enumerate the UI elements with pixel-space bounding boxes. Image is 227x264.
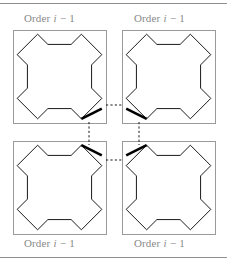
quadrant-label-bottom-right: Order i − 1 [134, 237, 185, 250]
order-motif-curve-top-right [126, 34, 211, 119]
thick-join-segment-bottom-left [81, 145, 101, 155]
label-prefix-bl: Order [24, 237, 53, 249]
label-suffix-br: − 1 [167, 237, 185, 249]
thick-join-segment-bottom-right [126, 145, 146, 155]
label-prefix-tl: Order [24, 12, 53, 24]
figure-canvas: Order i − 1 Order i − 1 Order i − 1 Orde… [0, 0, 227, 264]
label-prefix-br: Order [134, 237, 163, 249]
label-suffix-tr: − 1 [167, 12, 185, 24]
order-motif-curve-top-left [17, 34, 102, 119]
thick-join-segment-top-right [126, 109, 146, 119]
thick-join-segment-top-left [81, 109, 101, 119]
recursive-curve-diagram [0, 0, 227, 264]
order-motif-curve-bottom-right [126, 145, 211, 230]
label-prefix-tr: Order [134, 12, 163, 24]
quadrant-label-bottom-left: Order i − 1 [24, 237, 75, 250]
label-suffix-tl: − 1 [57, 12, 75, 24]
label-suffix-bl: − 1 [57, 237, 75, 249]
quadrant-label-top-left: Order i − 1 [24, 12, 75, 25]
order-motif-curve-bottom-left [17, 145, 102, 230]
quadrant-label-top-right: Order i − 1 [134, 12, 185, 25]
